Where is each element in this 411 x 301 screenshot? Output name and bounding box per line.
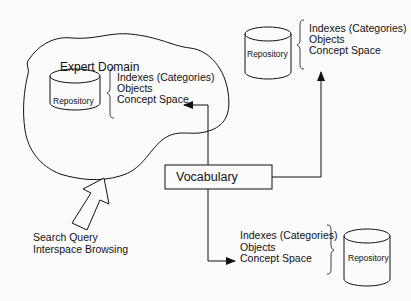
arrow-to-top-right [272, 72, 321, 177]
contents-item: Objects [309, 34, 345, 45]
user-input-line: Search Query [33, 232, 98, 243]
user-input-line: Interspace Browsing [33, 244, 128, 255]
repository-label-left: Repository [53, 97, 94, 106]
vocabulary-label: Vocabulary [176, 171, 238, 184]
arrow-to-bottom-right [208, 189, 235, 261]
contents-item: Concept Space [117, 94, 189, 105]
contents-item: Indexes (Categories) [117, 72, 214, 83]
user-input-arrow [72, 178, 109, 230]
repository-label-top-right: Repository [247, 50, 288, 59]
arrow-to-expert-domain [184, 105, 208, 165]
repository-label-bottom-right: Repository [348, 254, 389, 263]
contents-item: Concept Space [309, 45, 381, 56]
contents-item: Objects [117, 83, 153, 94]
brace-top-right [297, 20, 304, 69]
contents-item: Concept Space [240, 253, 312, 264]
diagram-canvas: Expert Domain Repository Indexes (Catego… [0, 0, 411, 301]
contents-item: Objects [240, 242, 276, 253]
contents-item: Indexes (Categories) [240, 230, 337, 241]
brace-left [107, 68, 114, 118]
contents-item: Indexes (Categories) [309, 23, 406, 34]
